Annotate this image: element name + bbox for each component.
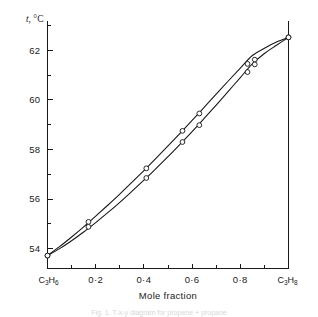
data-point-marker	[197, 111, 202, 116]
curve-dew	[48, 37, 289, 255]
x-tick-label: 0·6	[185, 274, 200, 285]
data-point-marker	[144, 166, 149, 171]
y-tick-label: 62	[29, 45, 40, 56]
data-point-marker	[45, 253, 50, 258]
y-axis-title: t, °C	[26, 14, 44, 24]
figure-container: 54565860620·20·40·60·8C3H6C3H8Mole fract…	[0, 0, 318, 317]
y-tick-label: 58	[29, 144, 40, 155]
data-point-marker	[180, 128, 185, 133]
data-point-marker	[144, 176, 149, 181]
x-axis-right-end-label: C3H8	[277, 275, 298, 286]
data-point-marker	[252, 62, 257, 67]
data-point-marker	[86, 224, 91, 229]
tx-diagram-chart: 54565860620·20·40·60·8C3H6C3H8Mole fract…	[0, 0, 318, 317]
figure-caption: Fig. 1. T-x-y diagram for propene + prop…	[0, 308, 318, 317]
x-tick-label: 0·8	[233, 274, 248, 285]
data-point-marker	[245, 70, 250, 75]
data-point-marker	[245, 62, 250, 67]
x-axis-title: Mole fraction	[139, 290, 197, 301]
data-point-marker	[180, 140, 185, 145]
data-point-marker	[197, 123, 202, 128]
y-tick-label: 56	[29, 193, 40, 204]
data-point-marker	[286, 35, 291, 40]
x-tick-label: 0·4	[136, 274, 151, 285]
y-tick-label: 54	[29, 243, 40, 254]
data-point-marker	[252, 57, 257, 62]
y-tick-label: 60	[29, 94, 40, 105]
x-axis-left-end-label: C3H6	[38, 275, 59, 286]
x-tick-label: 0·2	[88, 274, 103, 285]
data-point-marker	[86, 219, 91, 224]
